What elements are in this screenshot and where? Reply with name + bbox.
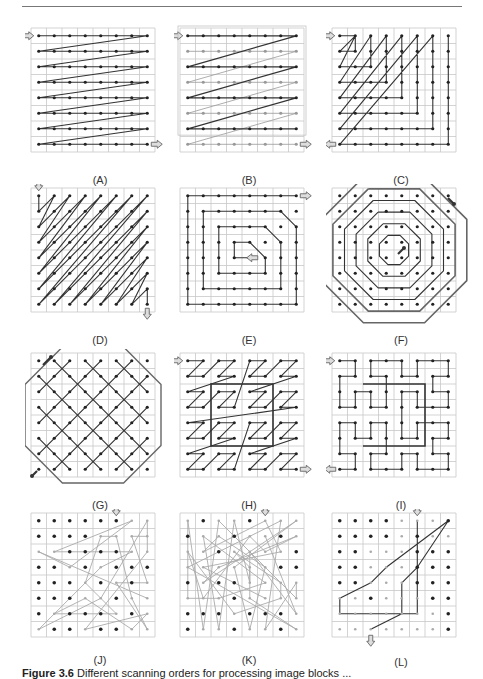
grid-point: [369, 534, 373, 538]
grid-point: [447, 225, 450, 228]
grid-point: [279, 303, 282, 306]
grid-point: [354, 50, 357, 53]
grid-point: [186, 468, 189, 471]
grid-point: [53, 272, 56, 275]
grid-point: [186, 287, 189, 290]
grid-point: [202, 81, 205, 84]
grid-point: [264, 452, 267, 455]
grid-point: [68, 375, 71, 378]
grid-point: [279, 437, 282, 440]
grid-point: [431, 65, 434, 68]
grid-point: [37, 272, 40, 275]
grid-point: [115, 287, 118, 290]
grid-point: [130, 272, 133, 275]
grid-point: [217, 81, 220, 84]
exit-arrow-icon: [300, 465, 311, 473]
grid-point: [415, 534, 419, 538]
grid-point: [130, 581, 134, 585]
grid-point: [186, 50, 189, 53]
grid-point: [279, 375, 282, 378]
grid-point: [279, 210, 282, 213]
grid-point: [186, 272, 189, 275]
grid-point: [115, 50, 118, 53]
grid-point: [400, 452, 403, 455]
grid-point: [369, 81, 372, 84]
grid-point: [400, 390, 403, 393]
grid-point: [295, 519, 298, 522]
grid-point: [53, 210, 56, 213]
grid-point: [233, 96, 236, 99]
grid-point: [279, 550, 282, 553]
grid-point: [53, 452, 56, 455]
grid-point: [279, 287, 282, 290]
grid-point: [146, 519, 149, 522]
grid-point: [233, 406, 236, 409]
grid-point: [338, 390, 341, 393]
grid-point: [201, 612, 205, 616]
grid-point: [233, 241, 236, 244]
grid-point: [186, 81, 189, 84]
grid-point: [115, 143, 118, 146]
panel-I: (I): [326, 349, 476, 514]
grid-point: [115, 65, 118, 68]
grid-point: [202, 535, 205, 538]
panel-G: (G): [25, 349, 175, 514]
grid-point: [447, 241, 450, 244]
grid-point: [37, 519, 41, 523]
grid-point: [115, 535, 118, 538]
grid-point: [202, 468, 205, 471]
grid-point: [385, 112, 388, 115]
grid-point: [202, 390, 205, 393]
grid-point: [431, 468, 434, 471]
grid-point: [202, 437, 205, 440]
grid-point: [264, 287, 267, 290]
entry-arrow-icon: [25, 32, 34, 40]
grid-point: [338, 194, 341, 197]
grid-point: [295, 303, 298, 306]
grid-point: [99, 452, 102, 455]
grid-point: [400, 566, 403, 569]
grid-point: [447, 452, 450, 455]
grid-point: [37, 50, 40, 53]
grid-point: [385, 406, 388, 409]
grid-point: [447, 96, 450, 99]
grid-point: [217, 375, 220, 378]
grid-point: [338, 96, 341, 99]
grid-point: [115, 81, 118, 84]
grid-point: [447, 287, 450, 290]
grid-point: [99, 612, 103, 616]
grid-point: [37, 565, 41, 569]
grid-point: [233, 468, 236, 471]
grid-point: [186, 65, 189, 68]
grid-point: [248, 81, 251, 84]
grid-point: [68, 581, 72, 585]
grid-point: [248, 303, 251, 306]
grid-point: [446, 596, 450, 600]
grid-point: [186, 225, 189, 228]
grid-point: [99, 535, 102, 538]
grid-point: [295, 421, 298, 424]
grid-point: [37, 421, 40, 424]
grid-point: [385, 452, 388, 455]
grid-point: [68, 550, 72, 554]
grid-point: [400, 65, 403, 68]
grid-point: [279, 241, 282, 244]
grid-point: [248, 452, 251, 455]
grid-point: [202, 143, 205, 146]
grid-point: [416, 303, 419, 306]
grid-point: [114, 596, 118, 600]
grid-point: [99, 112, 102, 115]
grid-point: [186, 612, 190, 616]
grid-point: [369, 143, 372, 146]
grid-point: [384, 519, 388, 523]
grid-point: [354, 406, 357, 409]
grid-point: [385, 287, 388, 290]
grid-point: [279, 256, 282, 259]
grid-point: [37, 194, 40, 197]
grid-point: [338, 581, 342, 585]
grid-point: [338, 81, 341, 84]
grid-point: [400, 210, 403, 213]
grid-point: [264, 359, 267, 362]
grid-point: [84, 452, 87, 455]
grid-point: [338, 241, 341, 244]
